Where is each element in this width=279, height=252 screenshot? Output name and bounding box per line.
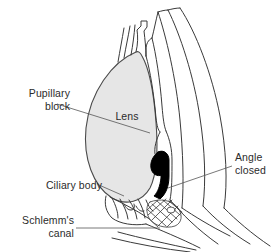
- label-angle-closed: Angle closed: [235, 151, 279, 177]
- schlemms-canal-lumen: [167, 207, 175, 213]
- sclera-upper-left: [152, 12, 158, 38]
- trabecular-meshwork: [147, 199, 182, 227]
- eye-diagram-figure: Pupillary block Lens Ciliary body Schlem…: [0, 0, 279, 252]
- label-pupillary-block: Pupillary block: [4, 87, 70, 113]
- sclera-top-connector: [168, 8, 180, 10]
- limbus-connector-top: [158, 10, 168, 12]
- zonule-fiber-2: [124, 26, 130, 58]
- leader-angle-closed: [168, 166, 232, 188]
- label-lens: Lens: [110, 110, 144, 123]
- ciliary-process-upper: [136, 21, 147, 56]
- zonule-fiber-1: [118, 28, 124, 62]
- label-schlemms-canal: Schlemm's canal: [4, 214, 74, 240]
- cornea-mid-curve: [168, 10, 205, 206]
- sclera-lower-curve-1: [182, 208, 230, 236]
- pupil-margin-curve: [146, 38, 152, 56]
- sclera-lower-curve-4: [224, 208, 270, 246]
- label-ciliary-body: Ciliary body: [26, 179, 102, 192]
- zonule-fiber-3: [131, 25, 135, 55]
- cornea-outer-curve: [180, 8, 226, 208]
